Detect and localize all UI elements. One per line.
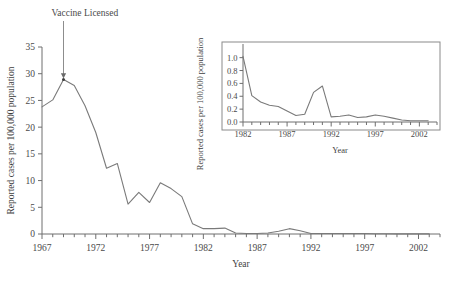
annotation-point-marker [62,78,65,81]
inset-x-tick-label: 1987 [279,129,296,139]
inset-y-tick-label: 0.6 [227,78,238,88]
main-y-tick-label: 25 [26,96,36,106]
main-annotation: Vaccine Licensed [52,8,119,81]
main-x-tick-label: 1967 [33,243,52,253]
main-y-tick-label: 35 [26,42,36,52]
main-x-tick-label: 1992 [301,243,320,253]
inset-x-tick-label: 1992 [323,129,340,139]
main-y-axis: 05101520253035Reported cases per 100,000… [6,42,42,239]
inset-x-tick-label: 2002 [411,129,428,139]
main-y-tick-label: 30 [26,69,36,79]
inset-y-tick-label: 0.4 [227,91,238,101]
inset-x-tick-label: 1982 [235,129,252,139]
main-x-tick-label: 1982 [194,243,213,253]
figure-root: 05101520253035Reported cases per 100,000… [0,0,451,283]
main-y-tick-label: 5 [30,203,35,213]
inset-x-axis-title: Year [332,145,348,155]
main-x-tick-label: 1977 [140,243,159,253]
main-x-tick-label: 1997 [355,243,374,253]
annotation-label: Vaccine Licensed [52,8,119,18]
inset-y-tick-label: 0.8 [227,66,238,76]
inset-y-tick-label: 1.0 [227,53,238,63]
annotation-arrow-head [61,73,66,78]
inset-y-axis: 0.00.20.40.60.81.0Reported cases per 100… [195,37,243,170]
main-x-axis-title: Year [232,259,250,269]
main-x-tick-label: 2002 [409,243,428,253]
inset-y-tick-label: 0.0 [227,117,238,127]
main-x-axis: 19671972197719821987199219972002Year [33,234,441,269]
chart-canvas: 05101520253035Reported cases per 100,000… [0,0,451,283]
main-y-tick-label: 20 [26,123,36,133]
inset-y-tick-label: 0.2 [227,104,238,114]
main-y-tick-label: 15 [26,149,36,159]
main-y-axis-title: Reported cases per 100,000 population [6,66,16,214]
main-y-tick-label: 10 [26,176,36,186]
main-x-tick-label: 1972 [86,243,105,253]
main-y-tick-label: 0 [30,229,35,239]
inset-x-tick-label: 1997 [367,129,384,139]
inset-y-axis-title: Reported cases per 100,000 population [195,37,205,170]
main-x-tick-label: 1987 [248,243,267,253]
